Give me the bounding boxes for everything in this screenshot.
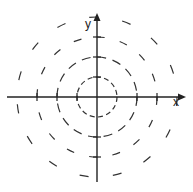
y-axis-label: y — [85, 17, 91, 31]
level-curves-diagram: x y — [0, 0, 193, 192]
x-axis-label: x — [173, 95, 179, 109]
